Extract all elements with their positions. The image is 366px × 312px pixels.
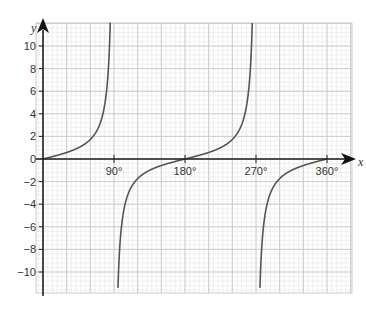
tan-graph: x y 90°180°270°360° 1086420−2−4−6−8−10 xyxy=(0,0,366,312)
y-tick-label: −6 xyxy=(23,221,36,233)
x-tick-label: 90° xyxy=(106,165,123,177)
y-axis-label: y xyxy=(30,21,37,35)
x-tick-label: 360° xyxy=(316,165,339,177)
x-tick-label: 180° xyxy=(174,165,197,177)
y-tick-label: 4 xyxy=(30,108,36,120)
grid-minor xyxy=(36,23,352,293)
y-tick-label: −4 xyxy=(23,198,36,210)
y-tick-label: −2 xyxy=(23,176,36,188)
y-tick-label: −8 xyxy=(23,243,36,255)
y-tick-label: 8 xyxy=(30,63,36,75)
grid-major xyxy=(36,23,352,293)
y-tick-label: 2 xyxy=(30,130,36,142)
y-tick-label: −10 xyxy=(17,266,36,278)
y-tick-label: 0 xyxy=(30,153,36,165)
y-tick-label: 10 xyxy=(24,40,36,52)
y-tick-label: 6 xyxy=(30,85,36,97)
x-axis-label: x xyxy=(357,155,364,169)
x-tick-label: 270° xyxy=(245,165,268,177)
